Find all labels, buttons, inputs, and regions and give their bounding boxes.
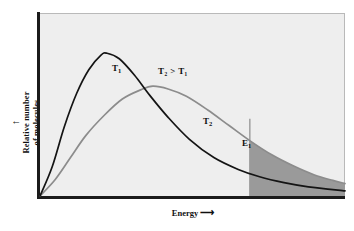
maxwell-boltzmann-distribution-figure: ↑ Relative number of molecules T1 T2 T₂ …	[0, 0, 354, 231]
x-axis-label: Energy⟶	[38, 207, 348, 218]
t2-curve-label: T2	[203, 116, 212, 126]
t1-curve-label: T1	[112, 63, 121, 73]
plot-area: T1 T2 T₂ > T₁ E1	[40, 13, 345, 196]
y-axis-label-line1: Relative number	[21, 91, 31, 153]
x-axis-arrow-icon: ⟶	[200, 207, 214, 218]
y-axis-arrow-icon: ↑	[12, 53, 20, 193]
distribution-curves	[40, 13, 345, 196]
x-axis-spine	[37, 196, 345, 199]
temperature-inequality-label: T₂ > T₁	[158, 66, 188, 76]
activation-energy-label: E1	[242, 138, 251, 148]
x-axis-label-text: Energy	[172, 208, 198, 218]
